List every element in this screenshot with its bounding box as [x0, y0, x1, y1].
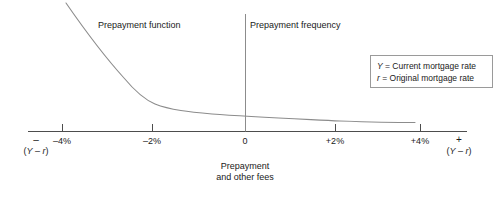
- x-tick-label-minus4: –4%: [53, 136, 71, 147]
- x-axis-title-line1: Prepayment: [216, 161, 274, 172]
- legend-box: Y = Current mortgage rate r = Original m…: [370, 55, 493, 88]
- axis-end-left-expression: (Y – r): [23, 145, 48, 157]
- paren-close: ): [46, 146, 49, 156]
- legend-row-original-rate: r = Original mortgage rate: [377, 72, 486, 84]
- paren-close: ): [469, 146, 472, 156]
- axis-end-right: + (Y – r): [446, 135, 471, 157]
- axis-end-right-sign: +: [446, 135, 471, 145]
- prepayment-function-chart: Prepayment function Prepayment frequency…: [0, 0, 501, 201]
- annotation-prepayment-function: Prepayment function: [98, 20, 181, 31]
- legend-text-current-rate: = Current mortgage rate: [383, 61, 476, 71]
- axis-end-left: – (Y – r): [23, 135, 48, 157]
- legend-text-original-rate: = Original mortgage rate: [380, 73, 474, 83]
- annotation-prepayment-frequency: Prepayment frequency: [250, 20, 341, 31]
- axis-end-right-expression: (Y – r): [446, 145, 471, 157]
- x-tick-label-plus2: +2%: [326, 136, 344, 147]
- minus-operator: –: [456, 146, 466, 156]
- axis-end-left-sign: –: [23, 135, 48, 145]
- x-axis-title: Prepayment and other fees: [216, 161, 274, 183]
- legend-row-current-rate: Y = Current mortgage rate: [377, 60, 486, 72]
- x-axis-title-line2: and other fees: [216, 172, 274, 183]
- x-tick-label-zero: 0: [242, 136, 247, 147]
- x-tick-label-plus4: +4%: [411, 136, 429, 147]
- x-tick-label-minus2: –2%: [143, 136, 161, 147]
- minus-operator: –: [33, 146, 43, 156]
